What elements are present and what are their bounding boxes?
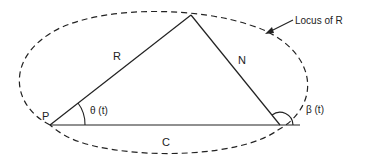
edge-r: [50, 15, 191, 125]
locus-of-r-curve: [19, 12, 307, 154]
theta-angle-arc: [78, 103, 85, 125]
label-locus: Locus of R: [295, 15, 343, 26]
label-theta: θ (t): [90, 105, 108, 116]
label-r: R: [113, 50, 121, 62]
label-p: P: [42, 110, 49, 122]
edge-n: [191, 15, 280, 125]
label-beta: β (t): [306, 104, 324, 115]
triangle-locus-diagram: R N C P θ (t) β (t) Locus of R: [0, 0, 365, 159]
label-n: N: [238, 54, 246, 66]
locus-pointer-arrowhead: [265, 27, 274, 34]
label-c: C: [162, 136, 170, 148]
